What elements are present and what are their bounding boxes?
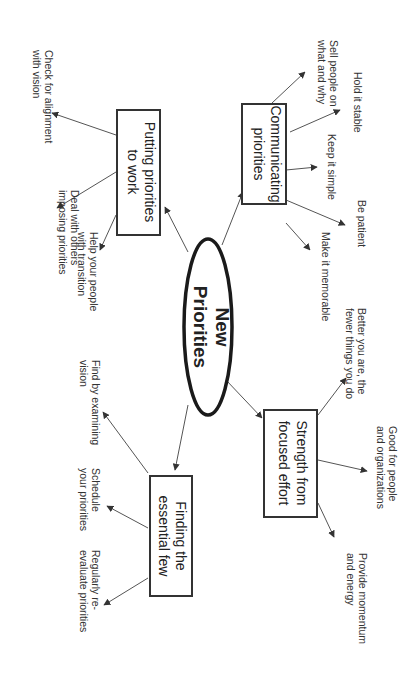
edge-make-memorable <box>286 223 310 250</box>
edge-regularly-reevaluate <box>104 578 148 605</box>
leaf-schedule: Schedule your priorities <box>78 468 102 531</box>
leaf-label-line2: imposing priorities <box>57 190 69 275</box>
leaf-label-line1: Good for people <box>387 426 399 501</box>
edge-sell-people <box>272 72 305 103</box>
branch-communicating[interactable]: Communicating priorities <box>242 104 286 204</box>
leaf-label-line1: Provide momentum <box>357 553 369 644</box>
leaf-label-line1: Be patient <box>356 200 368 247</box>
branch-finding[interactable]: Finding the essential few <box>150 476 192 596</box>
branch-label-line1: Finding the <box>173 501 189 570</box>
leaf-label-line2: evaluate priorities <box>78 550 90 632</box>
edge-help-people <box>100 215 116 250</box>
edge-good-for-people <box>318 460 367 471</box>
leaf-label-line1: Regularly re- <box>90 550 102 611</box>
edge-keep-simple <box>286 167 317 170</box>
leaf-sell-people: Sell people on what and why <box>316 39 340 107</box>
edge-root-strength <box>226 380 262 418</box>
leaf-help-people: Help your people with transition <box>76 231 100 312</box>
leaf-provide-momentum: Provide momentum and energy <box>345 553 369 644</box>
strength-edges <box>318 378 367 537</box>
leaf-label-line1: Keep it simple <box>326 134 338 200</box>
leaf-label-line1: Check for alignment <box>43 50 55 143</box>
leaf-label-line1: Sell people on <box>328 40 340 107</box>
leaf-label-line2: what and why <box>316 39 328 105</box>
leaf-label-line2: your priorities <box>78 468 90 531</box>
edge-provide-momentum <box>318 503 334 537</box>
leaf-good-for-people: Good for people and organizations <box>375 426 399 509</box>
finding-edges <box>103 412 148 605</box>
leaf-better-you-are: Better you are, the fewer things you do <box>344 308 368 399</box>
leaf-label-line2: with vision <box>31 49 43 99</box>
root-label-line1: New <box>212 307 233 346</box>
leaf-label-line2: and organizations <box>375 426 387 509</box>
leaf-hold-stable: Hold it stable <box>352 72 364 133</box>
branch-putting[interactable]: Putting priorities to work <box>117 110 160 235</box>
mind-map-canvas: New Priorities Communicating priorities … <box>0 0 418 685</box>
leaf-label-line1: Find by examining <box>90 360 102 445</box>
edge-find-by-examining <box>103 412 148 473</box>
leaf-regularly-reevaluate: Regularly re- evaluate priorities <box>78 550 102 632</box>
leaf-keep-simple: Keep it simple <box>326 134 338 200</box>
leaf-label-line1: Schedule <box>90 468 102 512</box>
leaf-find-by-examining: Find by examining vision <box>78 360 102 445</box>
leaf-label-line1: Help your people <box>88 232 100 312</box>
branch-label-line2: essential few <box>156 496 172 578</box>
edge-schedule <box>107 506 148 528</box>
leaf-label-line1: Better you are, the <box>356 308 368 395</box>
branch-label-line2: to work <box>125 149 141 195</box>
edge-be-patient <box>286 200 345 225</box>
edge-root-finding <box>175 405 188 470</box>
branch-label-line1: Putting priorities <box>142 122 158 222</box>
branch-label-line2: focused effort <box>276 421 292 506</box>
root-node[interactable]: New Priorities <box>184 239 233 415</box>
leaf-make-memorable: Make it memorable <box>320 232 332 321</box>
branch-label-line2: priorities <box>251 128 267 181</box>
edge-root-putting <box>165 207 188 252</box>
edge-check-alignment <box>52 113 116 135</box>
edge-root-communicating <box>222 192 243 245</box>
leaf-label-line2: fewer things you do <box>344 308 356 399</box>
leaf-label-line2: and energy <box>345 553 357 606</box>
edge-better-you-are <box>318 378 346 415</box>
edge-hold-stable <box>290 110 340 132</box>
branch-strength[interactable]: Strength from focused effort <box>264 410 317 517</box>
leaf-check-alignment: Check for alignment with vision <box>31 49 55 143</box>
leaf-label-line1: Make it memorable <box>320 232 332 321</box>
leaf-label-line1: Hold it stable <box>352 72 364 133</box>
branch-label-line1: Communicating <box>268 105 284 202</box>
root-label-line2: Priorities <box>190 286 211 368</box>
branch-label-line1: Strength from <box>294 421 310 506</box>
leaf-be-patient: Be patient <box>356 200 368 247</box>
leaf-label-line2: vision <box>78 360 90 387</box>
leaf-label-line2: with transition <box>76 231 88 296</box>
